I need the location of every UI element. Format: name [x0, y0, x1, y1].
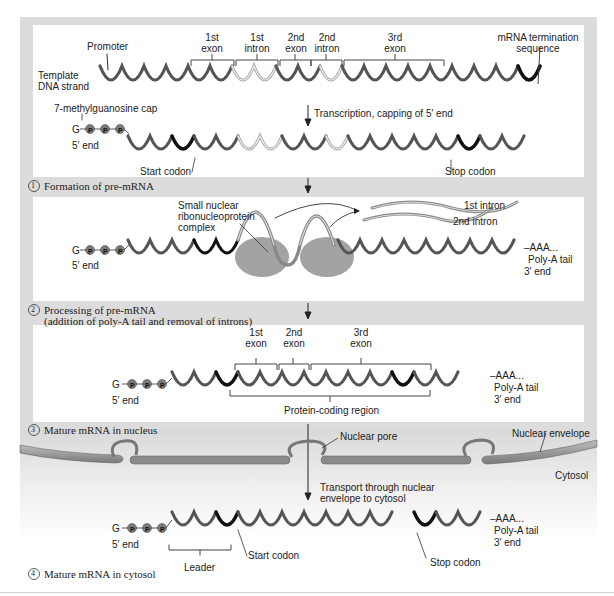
snrnp-complex: [235, 237, 354, 277]
template-dna-strand: [100, 54, 540, 80]
transport-label: Transport through nuclear envelope to cy…: [320, 482, 435, 504]
poly-a-tail-label: Poly-A tail: [528, 254, 572, 265]
nuclear-pore-label: Nuclear pore: [340, 431, 397, 442]
cap-g: G: [112, 379, 120, 390]
step-4-label: Mature mRNA in cytosol: [44, 568, 156, 580]
poly-a-sequence: –AAA...: [490, 513, 524, 524]
segment-label-intron2: 2nd intron: [307, 32, 347, 54]
start-codon-label: Start codon: [248, 550, 299, 561]
five-prime-end: 5′ end: [72, 260, 99, 271]
poly-a-tail-label: Poly-A tail: [494, 525, 538, 536]
poly-a-sequence: –AAA...: [490, 370, 524, 381]
three-prime-end: 3′ end: [494, 394, 521, 405]
five-prime-end: 5′ end: [72, 140, 99, 151]
mature-mrna-cytosol: [169, 512, 480, 558]
mature-mrna-nucleus: [172, 372, 458, 385]
segment-type: exon: [375, 43, 415, 54]
nuclear-pore-1: [112, 441, 136, 457]
nuclear-pore-2: [289, 441, 325, 457]
segment-type: intron: [237, 43, 277, 54]
transcription-label: Transcription, capping of 5′ end: [314, 108, 453, 119]
segment-ordinal: 2nd: [274, 327, 314, 338]
intron-1-label: 1st intron: [464, 200, 505, 211]
leader-label: Leader: [184, 562, 215, 573]
stop-codon-label: Stop codon: [430, 557, 481, 568]
step-3-number: 3: [31, 424, 35, 436]
segment-ordinal: 3rd: [341, 327, 381, 338]
protein-coding-region-label: Protein-coding region: [284, 405, 379, 416]
promoter-label: Promoter: [87, 41, 128, 52]
exon-label-1: 1st exon: [236, 327, 276, 349]
step-1-number: 1: [31, 180, 35, 192]
segment-ordinal: 1st: [192, 32, 232, 43]
segment-type: exon: [274, 338, 314, 349]
segment-type: exon: [341, 338, 381, 349]
five-prime-end: 5′ end: [112, 395, 139, 406]
template-strand-label: Template DNA strand: [38, 70, 98, 92]
step-number-circles: [29, 181, 40, 580]
step-3-label: Mature mRNA in nucleus: [44, 424, 157, 436]
segment-ordinal: 1st: [236, 327, 276, 338]
nuclear-envelope-label: Nuclear envelope: [512, 428, 590, 439]
pre-mrna-strand: [82, 114, 524, 172]
poly-a-sequence: –AAA...: [524, 242, 558, 253]
stop-codon-label: Stop codon: [445, 166, 496, 177]
step-2-number: 2: [31, 304, 35, 316]
start-codon-label: Start codon: [140, 166, 191, 177]
step-2-sublabel: (addition of poly-A tail and removal of …: [44, 315, 252, 327]
nuclear-pore-3: [464, 440, 494, 456]
segment-ordinal: 2nd: [307, 32, 347, 43]
segment-label-exon1: 1st exon: [192, 32, 232, 54]
segment-ordinal: 1st: [237, 32, 277, 43]
segment-label-exon3: 3rd exon: [375, 32, 415, 54]
exon-label-2: 2nd exon: [274, 327, 314, 349]
arrow-transcription: [305, 105, 311, 126]
three-prime-end: 3′ end: [524, 266, 551, 277]
segment-ordinal: 3rd: [375, 32, 415, 43]
intron-2-label: 2nd intron: [453, 216, 497, 227]
termination-sequence-label: mRNA termination sequence: [488, 32, 588, 54]
cap-g: G: [72, 124, 80, 135]
cap-g: G: [72, 245, 80, 256]
poly-a-tail-label: Poly-A tail: [494, 382, 538, 393]
snrnp-label: Small nuclear ribonucleoprotein complex: [178, 200, 255, 233]
segment-type: exon: [192, 43, 232, 54]
three-prime-end: 3′ end: [494, 537, 521, 548]
step-4-number: 4: [31, 568, 35, 580]
cytosol-label: Cytosol: [555, 470, 588, 481]
step-1-label: Formation of pre-mRNA: [44, 180, 154, 192]
arrow-transport: [305, 424, 311, 500]
segment-type: intron: [307, 43, 347, 54]
five-prime-end: 5′ end: [112, 539, 139, 550]
segment-type: exon: [236, 338, 276, 349]
cap-label: 7-methylguanosine cap: [54, 103, 157, 114]
cap-g: G: [112, 523, 120, 534]
segment-label-intron1: 1st intron: [237, 32, 277, 54]
exon-label-3: 3rd exon: [341, 327, 381, 349]
